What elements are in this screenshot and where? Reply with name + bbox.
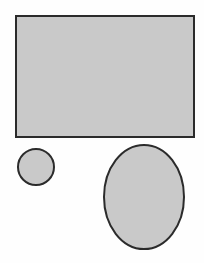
large-ellipse-shape [104,145,184,249]
rectangle-shape [16,16,194,137]
small-circle-shape [18,149,54,185]
figure-canvas [0,0,204,263]
shapes-illustration [0,0,204,263]
